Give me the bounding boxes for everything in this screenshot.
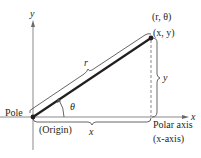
origin-label: (Origin) — [39, 124, 72, 136]
angle-arc — [59, 100, 64, 117]
y-axis-label: y — [29, 8, 35, 19]
angle-label: θ — [70, 101, 75, 112]
rect-point-label: (x, y) — [153, 27, 175, 39]
polar-point-label: (r, θ) — [152, 11, 171, 23]
radius-segment — [33, 38, 151, 117]
horizontal-leg-label: x — [88, 126, 94, 137]
y-axis — [31, 20, 35, 150]
vertical-brace — [152, 38, 160, 117]
polar-coordinates-diagram: y x r y x θ (r, θ) (x, y) Pole (Origin) … — [0, 0, 201, 158]
vertical-leg-label: y — [162, 72, 168, 83]
polar-axis-label: Polar axis — [153, 119, 193, 130]
polar-axis-note: (x-axis) — [153, 133, 184, 145]
pole-label: Pole — [5, 107, 23, 118]
radius-brace — [30, 34, 151, 113]
y-axis-arrow-icon — [31, 20, 35, 27]
pole-point — [31, 115, 36, 120]
rect-point-text: (x, y) — [153, 27, 175, 39]
radius-label: r — [84, 57, 88, 68]
polar-point-text: (r, θ) — [152, 11, 171, 23]
